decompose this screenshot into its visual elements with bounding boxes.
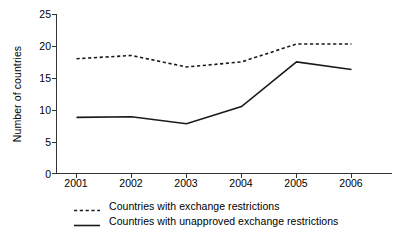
legend-label-unapproved-exchange-restrictions: Countries with unapproved exchange restr… [109, 215, 338, 227]
series-line-unapproved-exchange-restrictions [77, 62, 352, 124]
legend-label-exchange-restrictions: Countries with exchange restrictions [109, 200, 279, 212]
dashed-line-swatch-icon [74, 201, 100, 211]
chart-legend: Countries with exchange restrictions Cou… [74, 198, 394, 228]
x-axis-ticks [77, 174, 352, 178]
solid-line-swatch-icon [74, 216, 100, 226]
legend-item-exchange-restrictions: Countries with exchange restrictions [74, 198, 394, 213]
axis-lines [56, 14, 392, 174]
y-axis-ticks [52, 15, 56, 174]
line-chart-figure: Number of countries 25 20 15 10 5 0 2001… [0, 0, 403, 235]
legend-item-unapproved-exchange-restrictions: Countries with unapproved exchange restr… [74, 213, 394, 228]
